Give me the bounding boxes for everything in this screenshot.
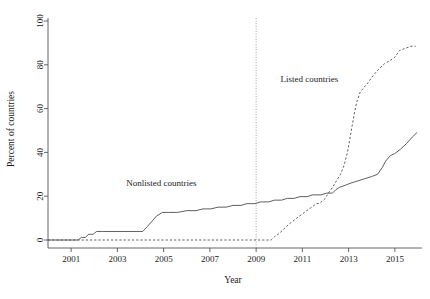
x-tick-label-2007: 2007 (201, 254, 220, 264)
x-tick-label-2013: 2013 (340, 254, 359, 264)
line-chart-canvas: 0204060801002001200320052007200920112013… (0, 0, 430, 299)
y-tick-label-80: 80 (35, 60, 45, 70)
x-tick-label-2003: 2003 (108, 254, 127, 264)
tick-labels-group: 0204060801002001200320052007200920112013… (35, 14, 404, 264)
data-series-group (48, 46, 417, 240)
chart-figure: 0204060801002001200320052007200920112013… (0, 0, 430, 299)
series-nonlisted-countries (48, 133, 417, 240)
y-tick-label-40: 40 (35, 147, 45, 157)
axes-group (48, 18, 422, 248)
x-tick-label-2009: 2009 (247, 254, 266, 264)
y-tick-label-60: 60 (35, 104, 45, 114)
listed-label: Listed countries (280, 74, 338, 84)
series-listed-countries (48, 46, 416, 240)
annotations-group: Nonlisted countriesListed countries (126, 74, 338, 188)
x-tick-label-2005: 2005 (155, 254, 174, 264)
x-tick-label-2011: 2011 (294, 254, 312, 264)
x-tick-label-2015: 2015 (386, 254, 405, 264)
y-axis-title: Percent of countries (6, 91, 16, 167)
x-axis-title: Year (224, 275, 242, 285)
x-tick-label-2001: 2001 (62, 254, 80, 264)
y-tick-label-0: 0 (35, 237, 45, 242)
tick-marks-group (44, 21, 395, 252)
y-tick-label-100: 100 (35, 14, 45, 28)
y-tick-label-20: 20 (35, 191, 45, 201)
nonlisted-label: Nonlisted countries (126, 178, 197, 188)
